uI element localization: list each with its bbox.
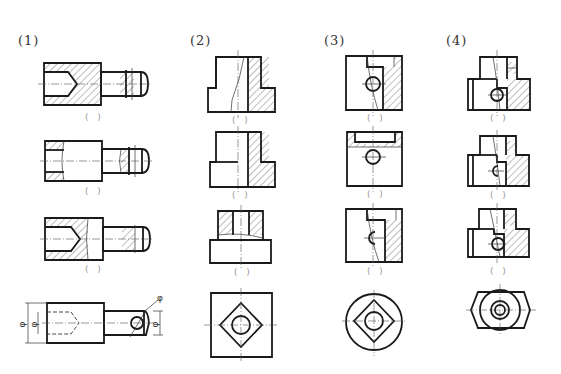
dimension-hole-diameter: φ bbox=[157, 293, 166, 303]
answer-slot[interactable]: ( ) bbox=[85, 264, 104, 274]
col2-view4-top-view bbox=[204, 288, 278, 362]
answer-slot[interactable]: ( ) bbox=[367, 113, 386, 123]
col4-view1-section bbox=[468, 50, 530, 116]
col4-view3-section bbox=[468, 203, 529, 263]
col3-view3-broken-section bbox=[346, 203, 402, 268]
dimension-inner-diameter: φ bbox=[29, 319, 39, 328]
col1-view1-full-section bbox=[38, 63, 150, 105]
column-label-3: (3) bbox=[324, 33, 345, 48]
col2-view2-half-section bbox=[210, 126, 275, 192]
col3-view1-broken-section bbox=[346, 50, 402, 116]
col3-view2-section bbox=[347, 126, 402, 192]
column-label-1: (1) bbox=[18, 33, 39, 48]
col2-view3-local-section bbox=[210, 205, 271, 268]
answer-slot[interactable]: ( ) bbox=[85, 186, 104, 196]
col3-view4-top-view bbox=[342, 290, 406, 356]
column-label-4: (4) bbox=[446, 33, 467, 48]
col2-view1-broken-section bbox=[208, 50, 275, 118]
answer-slot[interactable]: ( ) bbox=[234, 267, 253, 277]
answer-slot[interactable]: ( ) bbox=[85, 112, 104, 122]
col4-view4-top-view bbox=[466, 284, 536, 336]
answer-slot[interactable]: ( ) bbox=[367, 189, 386, 199]
answer-slot[interactable]: ( ) bbox=[232, 115, 251, 125]
answer-slot[interactable]: ( ) bbox=[490, 190, 509, 200]
col1-view3-local-section bbox=[40, 218, 154, 260]
col4-view2-section bbox=[468, 130, 529, 192]
answer-slot[interactable]: ( ) bbox=[367, 266, 386, 276]
dimension-pin-diameter: φ bbox=[150, 319, 160, 328]
dimension-outer-diameter: φ bbox=[17, 319, 27, 328]
col1-view4-exterior-dimensioned bbox=[25, 300, 163, 343]
column-label-2: (2) bbox=[190, 33, 211, 48]
answer-slot[interactable]: ( ) bbox=[490, 113, 509, 123]
answer-slot[interactable]: ( ) bbox=[490, 266, 509, 276]
answer-slot[interactable]: ( ) bbox=[232, 190, 251, 200]
col1-view2-partial-section bbox=[40, 141, 152, 181]
